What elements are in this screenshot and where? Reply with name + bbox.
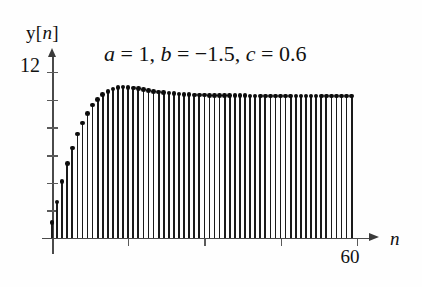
stem-marker	[314, 94, 319, 99]
stem-line	[336, 96, 338, 238]
stem-line	[219, 95, 221, 238]
stem-line	[87, 113, 89, 238]
stem-line	[214, 95, 216, 238]
stem-line	[92, 105, 94, 238]
stem-marker	[55, 200, 60, 205]
stem-marker	[319, 94, 324, 99]
stem-marker	[151, 89, 156, 94]
stem-marker	[146, 88, 151, 93]
stem-plot-figure: y[n] 12 60 n a = 1, b = −1.5, c = 0.6	[0, 0, 422, 287]
stem-marker	[283, 94, 288, 99]
stem-marker	[222, 93, 227, 98]
stem-line	[173, 94, 175, 238]
stem-line	[224, 96, 226, 238]
stem-marker	[324, 94, 329, 99]
stem-marker	[60, 179, 65, 184]
stem-line	[264, 96, 266, 238]
stem-marker	[273, 94, 278, 99]
stem-marker	[85, 111, 90, 116]
stem-line	[122, 87, 124, 238]
stem-marker	[197, 93, 202, 98]
stem-line	[66, 163, 68, 238]
stem-line	[127, 87, 129, 238]
stem-marker	[217, 93, 222, 98]
stem-line	[331, 96, 333, 238]
stem-line	[270, 96, 272, 238]
stem-line	[82, 123, 84, 238]
stem-marker	[65, 161, 70, 166]
stem-line	[204, 95, 206, 238]
stem-line	[107, 91, 109, 238]
stem-line	[275, 96, 277, 238]
stem-line	[132, 88, 134, 238]
stem-marker	[248, 94, 253, 99]
stem-line	[71, 148, 73, 238]
stem-line	[300, 96, 302, 238]
stem-marker	[111, 87, 116, 92]
stem-line	[285, 96, 287, 238]
stem-marker	[161, 90, 166, 95]
stem-marker	[116, 85, 121, 90]
stem-marker	[253, 94, 258, 99]
stem-marker	[141, 87, 146, 92]
stem-marker	[80, 121, 85, 126]
stem-line	[168, 93, 170, 238]
stem-marker	[182, 92, 187, 97]
stem-line	[61, 181, 63, 238]
stem-marker	[238, 93, 243, 98]
stem-marker	[263, 94, 268, 99]
stem-line	[315, 96, 317, 238]
stem-marker	[177, 92, 182, 97]
stem-line	[320, 96, 322, 238]
stem-line	[117, 88, 119, 238]
stem-marker	[334, 94, 339, 99]
stem-line	[148, 90, 150, 238]
stem-marker	[202, 93, 207, 98]
stem-line	[229, 96, 231, 238]
stem-line	[198, 95, 200, 238]
stem-marker	[50, 220, 55, 225]
stem-marker	[75, 132, 80, 137]
stem-line	[234, 96, 236, 238]
stem-marker	[268, 94, 273, 99]
stem-line	[295, 96, 297, 238]
stem-line	[158, 92, 160, 238]
stem-marker	[207, 93, 212, 98]
stem-line	[97, 100, 99, 238]
stem-marker	[243, 93, 248, 98]
stem-line	[325, 96, 327, 238]
stem-line	[259, 96, 261, 238]
stem-marker	[131, 86, 136, 91]
stem-marker	[212, 93, 217, 98]
stem-marker	[167, 91, 172, 96]
stem-line	[244, 96, 246, 238]
stem-marker	[121, 85, 126, 90]
stem-marker	[233, 93, 238, 98]
stem-marker	[329, 94, 334, 99]
stem-line	[102, 95, 104, 238]
stem-line	[188, 95, 190, 238]
stem-marker	[304, 94, 309, 99]
stem-marker	[192, 93, 197, 98]
stem-series	[0, 0, 422, 287]
stem-marker	[227, 93, 232, 98]
stem-line	[254, 96, 256, 238]
stem-line	[193, 95, 195, 238]
stem-marker	[288, 94, 293, 99]
stem-marker	[90, 103, 95, 108]
stem-line	[137, 89, 139, 238]
stem-line	[112, 89, 114, 238]
stem-marker	[309, 94, 314, 99]
stem-line	[239, 96, 241, 238]
stem-marker	[349, 94, 354, 99]
stem-line	[178, 94, 180, 238]
stem-line	[163, 93, 165, 238]
stem-line	[305, 96, 307, 238]
stem-marker	[258, 94, 263, 99]
stem-line	[351, 96, 353, 238]
stem-marker	[100, 92, 105, 97]
stem-line	[51, 223, 53, 238]
stem-marker	[344, 94, 349, 99]
stem-line	[290, 96, 292, 238]
stem-marker	[136, 86, 141, 91]
